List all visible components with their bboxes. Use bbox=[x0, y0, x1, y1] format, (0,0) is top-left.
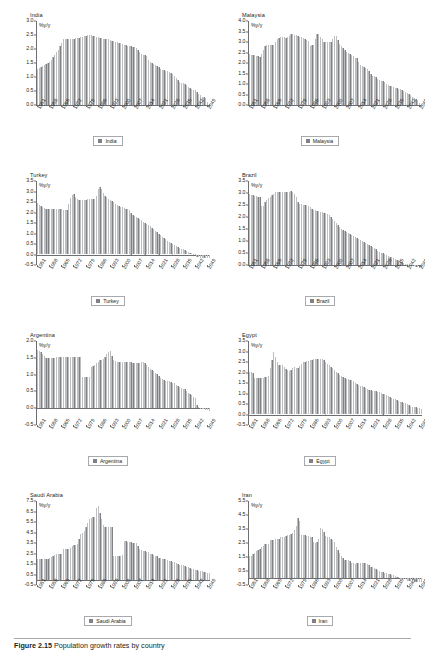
chart-legend: India bbox=[4, 136, 212, 146]
bar-series bbox=[249, 501, 422, 585]
bar-column bbox=[420, 21, 422, 105]
y-axis-unit-label: %y/y bbox=[39, 182, 50, 188]
legend-label: Turkey bbox=[103, 298, 119, 304]
chart-legend: Argentina bbox=[4, 456, 212, 466]
legend-box: Egypt bbox=[304, 456, 335, 466]
legend-label: Iran bbox=[319, 618, 328, 624]
chart-legend: Egypt bbox=[216, 456, 424, 466]
bar-column bbox=[420, 181, 422, 265]
panel-title: India bbox=[30, 12, 212, 19]
y-axis-unit-label: %y/y bbox=[39, 22, 50, 28]
chart-panel-turkey: Turkey%y/y-0.50.00.51.01.52.02.53.03.519… bbox=[4, 166, 212, 326]
bar bbox=[209, 408, 210, 411]
figure-caption-text: Population growth rates by country bbox=[54, 641, 165, 650]
panel-title: Iran bbox=[242, 492, 424, 499]
x-axis-labels: 1951195819651972197919861993200020072014… bbox=[248, 105, 422, 135]
bar bbox=[421, 409, 422, 415]
x-axis-labels: 1951195819651972197919861993200020072014… bbox=[36, 425, 210, 455]
x-axis-labels: 1951195819651972197919861993200020072014… bbox=[248, 425, 422, 455]
chart-legend: Malaysia bbox=[216, 136, 424, 146]
chart-panel-iran: Iran%y/y-0.50.51.52.53.54.55.51951195819… bbox=[216, 486, 424, 646]
plot-area: %y/y-0.50.51.52.53.54.55.5 bbox=[248, 501, 422, 585]
legend-swatch-icon bbox=[98, 139, 102, 143]
legend-swatch-icon bbox=[312, 619, 316, 623]
y-axis-unit-label: %y/y bbox=[251, 342, 262, 348]
chart-panel-india: India%y/y0.00.51.01.52.02.53.01951195819… bbox=[4, 6, 212, 166]
legend-swatch-icon bbox=[306, 139, 310, 143]
y-axis-unit-label: %y/y bbox=[39, 502, 50, 508]
legend-label: Brazil bbox=[317, 298, 330, 304]
legend-label: Argentina bbox=[100, 458, 122, 464]
y-axis-unit-label: %y/y bbox=[251, 182, 262, 188]
panel-title: Brazil bbox=[242, 172, 424, 179]
legend-label: Egypt bbox=[316, 458, 329, 464]
legend-box: Malaysia bbox=[301, 136, 339, 146]
bar-column bbox=[208, 501, 210, 585]
y-axis-unit-label: %y/y bbox=[39, 342, 50, 348]
panel-title: Malaysia bbox=[242, 12, 424, 19]
panel-title: Egypt bbox=[242, 332, 424, 339]
plot-area: %y/y-0.50.00.51.01.52.02.53.03.5 bbox=[248, 341, 422, 425]
bar-column bbox=[208, 181, 210, 265]
legend-label: Saudi Arabia bbox=[96, 618, 125, 624]
legend-swatch-icon bbox=[310, 299, 314, 303]
chart-legend: Saudi Arabia bbox=[4, 616, 212, 626]
bar-series bbox=[249, 21, 422, 105]
plot-area: %y/y0.00.51.01.52.02.53.03.5 bbox=[248, 181, 422, 265]
bar-series bbox=[37, 181, 210, 265]
caption-divider bbox=[14, 638, 411, 639]
bar-column bbox=[420, 501, 422, 585]
legend-box: Brazil bbox=[305, 296, 336, 306]
chart-panel-brazil: Brazil%y/y0.00.51.01.52.02.53.03.5195119… bbox=[216, 166, 424, 326]
panel-title: Saudi Arabia bbox=[30, 492, 212, 499]
y-axis-unit-label: %y/y bbox=[251, 22, 262, 28]
figure-caption: Figure 2.15 Population growth rates by c… bbox=[14, 641, 411, 651]
chart-legend: Brazil bbox=[216, 296, 424, 306]
plot-area: %y/y-0.50.00.51.01.52.0 bbox=[36, 341, 210, 425]
x-axis-labels: 1951195819651972197919861993200020072014… bbox=[248, 585, 422, 615]
figure-caption-label: Figure 2.15 bbox=[14, 641, 52, 650]
bar-column bbox=[208, 21, 210, 105]
panel-title: Argentina bbox=[30, 332, 212, 339]
x-axis-labels: 1951195819651972197919861993200020072014… bbox=[36, 265, 210, 295]
chart-legend: Turkey bbox=[4, 296, 212, 306]
legend-swatch-icon bbox=[93, 459, 97, 463]
bar bbox=[209, 255, 210, 259]
chart-panel-saudi-arabia: Saudi Arabia%y/y-0.50.51.52.53.54.55.56.… bbox=[4, 486, 212, 646]
x-axis-labels: 1951195819651972197919861993200020072014… bbox=[36, 105, 210, 135]
chart-legend: Iran bbox=[216, 616, 424, 626]
legend-box: Argentina bbox=[88, 456, 128, 466]
legend-swatch-icon bbox=[309, 459, 313, 463]
panel-title: Turkey bbox=[30, 172, 212, 179]
x-axis-labels: 1951195819651972197919861993200020072014… bbox=[36, 585, 210, 615]
y-axis-unit-label: %y/y bbox=[251, 502, 262, 508]
legend-box: Saudi Arabia bbox=[84, 616, 131, 626]
plot-area: %y/y0.00.51.01.52.02.53.03.54.0 bbox=[248, 21, 422, 105]
chart-panel-argentina: Argentina%y/y-0.50.00.51.01.52.019511958… bbox=[4, 326, 212, 486]
legend-box: Turkey bbox=[91, 296, 125, 306]
legend-swatch-icon bbox=[89, 619, 93, 623]
legend-box: India bbox=[93, 136, 122, 146]
legend-label: Malaysia bbox=[313, 138, 333, 144]
bar-column bbox=[208, 341, 210, 425]
legend-box: Iran bbox=[307, 616, 334, 626]
figure-container: India%y/y0.00.51.01.52.02.53.01951195819… bbox=[0, 0, 425, 651]
bar-series bbox=[249, 341, 422, 425]
plot-area: %y/y-0.50.00.51.01.52.02.53.03.5 bbox=[36, 181, 210, 265]
chart-grid: India%y/y0.00.51.01.52.02.53.01951195819… bbox=[4, 6, 421, 646]
bar-series bbox=[37, 21, 210, 105]
plot-area: %y/y0.00.51.01.52.02.53.0 bbox=[36, 21, 210, 105]
bar-series bbox=[37, 341, 210, 425]
legend-swatch-icon bbox=[96, 299, 100, 303]
legend-label: India bbox=[105, 138, 116, 144]
chart-panel-egypt: Egypt%y/y-0.50.00.51.01.52.02.53.03.5195… bbox=[216, 326, 424, 486]
bar-series bbox=[249, 181, 422, 265]
x-axis-labels: 1951195819651972197919861993200020072014… bbox=[248, 265, 422, 295]
chart-panel-malaysia: Malaysia%y/y0.00.51.01.52.02.53.03.54.01… bbox=[216, 6, 424, 166]
bar-column bbox=[420, 341, 422, 425]
plot-area: %y/y-0.50.51.52.53.54.55.56.57.5 bbox=[36, 501, 210, 585]
bar-series bbox=[37, 501, 210, 585]
